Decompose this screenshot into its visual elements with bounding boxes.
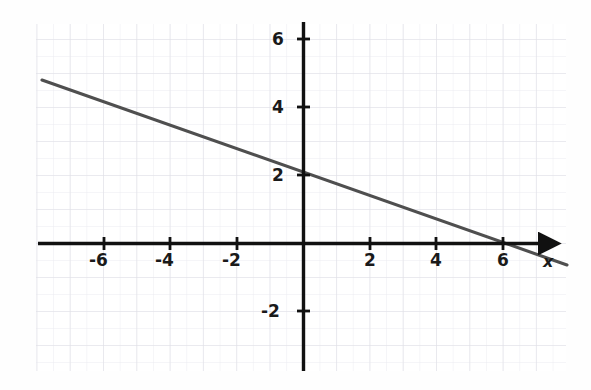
y-tick-label-4: 4: [272, 97, 284, 117]
coordinate-plane-figure: [0, 0, 591, 390]
x-tick-label-4: 4: [430, 250, 442, 270]
x-tick-label--4: -4: [155, 250, 174, 270]
x-tick-label--2: -2: [222, 250, 241, 270]
x-tick-label-6: 6: [497, 250, 509, 270]
grid-background: [36, 24, 566, 371]
x-tick-label--6: -6: [89, 250, 108, 270]
graph-canvas: -6 -4 -2 2 4 6 6 4 2 -2 x: [0, 0, 591, 390]
y-tick-label-6: 6: [272, 29, 284, 49]
y-tick-label--2: -2: [261, 301, 280, 321]
x-axis-label: x: [543, 252, 553, 271]
x-tick-label-2: 2: [364, 250, 376, 270]
y-tick-label-2: 2: [272, 165, 284, 185]
